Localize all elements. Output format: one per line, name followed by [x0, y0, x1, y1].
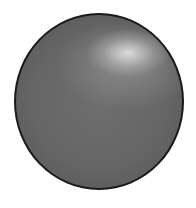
gray-sphere: [14, 13, 184, 190]
